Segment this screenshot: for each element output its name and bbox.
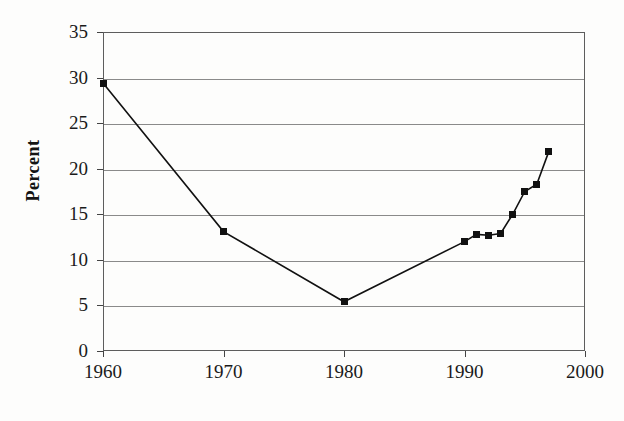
gridline-y-10 [104,261,584,262]
data-point-1990 [461,238,468,245]
x-tick-label-1980: 1980 [309,362,379,381]
data-point-1970 [220,228,227,235]
y-axis-title: Percent [23,116,44,226]
chart-page: Percent 05101520253035 19601970198019902… [0,0,624,421]
y-tick-label-30: 30 [48,68,88,87]
data-point-1994 [509,211,516,218]
gridline-y-25 [104,124,584,125]
data-point-1997 [545,148,552,155]
y-tick-label-25: 25 [48,113,88,132]
y-tick-label-0: 0 [48,341,88,360]
y-tick-label-10: 10 [48,250,88,269]
y-tick-label-35: 35 [48,22,88,41]
x-tick-label-1960: 1960 [68,362,138,381]
x-tick-label-1990: 1990 [430,362,500,381]
gridline-y-5 [104,306,584,307]
x-tick-1990 [465,351,466,357]
x-tick-1960 [103,351,104,357]
y-tick-label-5: 5 [48,295,88,314]
x-tick-1970 [224,351,225,357]
y-tick-label-20: 20 [48,159,88,178]
data-point-1960 [100,80,107,87]
y-tick-label-15: 15 [48,204,88,223]
data-point-1993 [497,230,504,237]
data-point-1992 [485,232,492,239]
x-tick-1980 [344,351,345,357]
data-point-1991 [473,231,480,238]
x-tick-2000 [585,351,586,357]
x-tick-label-1970: 1970 [189,362,259,381]
gridline-y-20 [104,170,584,171]
x-tick-label-2000: 2000 [550,362,620,381]
gridline-y-30 [104,79,584,80]
data-point-1995 [521,188,528,195]
data-point-1980 [341,298,348,305]
data-point-1996 [533,181,540,188]
